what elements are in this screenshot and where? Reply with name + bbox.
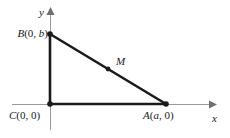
y-axis-arrowhead — [47, 7, 55, 15]
y-axis-label: y — [39, 7, 44, 18]
point-m-label: M — [116, 56, 125, 67]
point-a-label: A(a, 0) — [143, 110, 174, 121]
point-c-dot — [47, 101, 53, 107]
point-a-dot — [163, 101, 169, 107]
point-b-label: B(0, b) — [17, 28, 48, 39]
point-m-dot — [106, 67, 111, 72]
x-axis-label: x — [212, 113, 217, 124]
point-c-label: C(0, 0) — [9, 110, 40, 121]
x-axis-arrowhead — [209, 101, 217, 109]
coordinate-diagram: B(0, b) C(0, 0) A(a, 0) M y x — [0, 0, 230, 138]
point-b-dot — [47, 31, 53, 37]
